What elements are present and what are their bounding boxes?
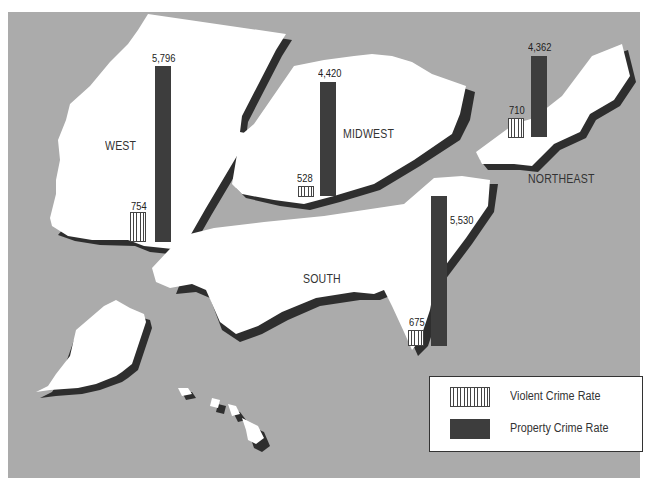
legend-item-property: Property Crime Rate xyxy=(430,419,642,439)
south-property-value: 5,530 xyxy=(450,214,473,226)
midwest-violent-value: 528 xyxy=(297,172,313,184)
region-label-west: WEST xyxy=(105,139,136,153)
west-property-value: 5,796 xyxy=(152,52,175,64)
northeast-property-bar xyxy=(531,56,547,137)
northeast-property-value: 4,362 xyxy=(528,41,551,53)
legend-label-violent: Violent Crime Rate xyxy=(510,389,600,403)
west-property-bar xyxy=(155,66,171,242)
west-violent-bar xyxy=(130,212,146,242)
violent-hatch-swatch-icon xyxy=(450,387,490,407)
region-label-northeast: NORTHEAST xyxy=(528,172,595,186)
region-label-midwest: MIDWEST xyxy=(343,127,394,141)
property-solid-swatch-icon xyxy=(450,419,490,439)
west-violent-value: 754 xyxy=(131,200,147,212)
region-label-south: SOUTH xyxy=(303,272,341,286)
midwest-property-value: 4,420 xyxy=(318,67,341,79)
legend: Violent Crime Rate Property Crime Rate xyxy=(429,376,643,452)
south-property-bar xyxy=(431,196,447,346)
south-violent-value: 675 xyxy=(409,316,425,328)
northeast-violent-value: 710 xyxy=(509,104,525,116)
midwest-violent-bar xyxy=(298,186,314,197)
legend-item-violent: Violent Crime Rate xyxy=(430,387,642,407)
midwest-property-bar xyxy=(320,82,336,196)
legend-label-property: Property Crime Rate xyxy=(510,421,608,435)
south-violent-bar xyxy=(408,330,424,346)
northeast-violent-bar xyxy=(508,118,524,138)
